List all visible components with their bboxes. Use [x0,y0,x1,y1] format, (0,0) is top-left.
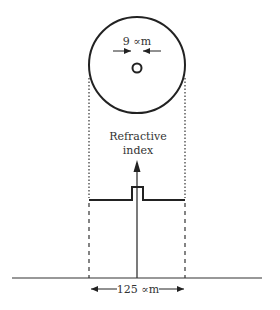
cladding-diameter-label: 125 ∝m [117,283,160,296]
core-circle [133,64,142,73]
fiber-diagram: 9 ∝m Refractive index 125 ∝m [0,0,280,310]
axis-label-refractive: Refractive [109,130,167,143]
cladding-circle [89,17,185,113]
axis-arrowhead-icon [134,160,141,172]
core-diameter-label: 9 ∝m [123,35,152,48]
axis-label-index: index [123,144,154,157]
diagram-canvas: 9 ∝m Refractive index 125 ∝m [0,0,280,310]
